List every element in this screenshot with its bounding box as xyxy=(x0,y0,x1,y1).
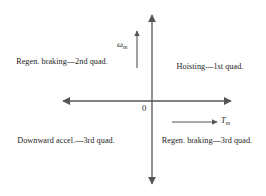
quadrant-2-label: Regen. braking—2nd quad. xyxy=(6,57,118,68)
quadrant-3-left-label: Downward accel.—3rd quad. xyxy=(10,136,122,147)
quadrant-1-label: Hoisting—1st quad. xyxy=(158,62,262,73)
origin-label: 0 xyxy=(142,103,146,113)
speed-axis-label: ωm xyxy=(117,40,127,49)
speed-axis-subscript: m xyxy=(123,44,127,50)
axes-graphic xyxy=(0,0,266,196)
quadrant-3-right-label: Regen. braking—3rd quad. xyxy=(152,136,262,147)
four-quadrant-diagram: Regen. braking—2nd quad. Hoisting—1st qu… xyxy=(0,0,266,196)
torque-axis-label: Tm xyxy=(221,116,230,125)
torque-axis-subscript: m xyxy=(226,120,230,126)
torque-axis-symbol: T xyxy=(221,116,226,125)
